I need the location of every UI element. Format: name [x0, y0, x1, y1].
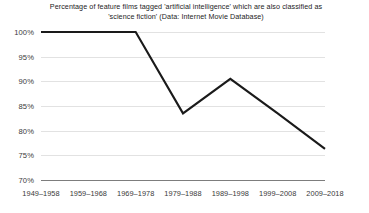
y-axis-tick-label: 95%: [19, 52, 34, 61]
x-axis-tick-label: 2009–2018: [306, 189, 343, 198]
x-axis-labels: 1949–19581959–19681969–19781979–19881989…: [41, 186, 325, 202]
gridline-70: [41, 180, 325, 181]
plot-area: [41, 32, 325, 180]
chart-title: Percentage of feature films tagged 'arti…: [36, 2, 336, 21]
chart-container: Percentage of feature films tagged 'arti…: [0, 0, 369, 213]
x-axis-tick-label: 1979–1988: [164, 189, 201, 198]
y-axis-tick-label: 80%: [19, 126, 34, 135]
y-axis-tick-label: 75%: [19, 151, 34, 160]
chart-title-line-2: 'science fiction' (Data: Internet Movie …: [36, 12, 336, 22]
chart-title-line-1: Percentage of feature films tagged 'arti…: [36, 2, 336, 12]
y-axis-tick-label: 85%: [19, 102, 34, 111]
x-axis-tick-label: 1989–1998: [212, 189, 249, 198]
data-series-line: [41, 32, 325, 180]
y-axis-labels: 70%75%80%85%90%95%100%: [0, 32, 37, 180]
y-axis-tick-label: 70%: [19, 176, 34, 185]
x-axis-tick-label: 1969–1978: [117, 189, 154, 198]
y-axis-tick-label: 100%: [14, 28, 34, 37]
y-axis-tick-label: 90%: [19, 77, 34, 86]
x-axis-tick-label: 1999–2008: [259, 189, 296, 198]
x-axis-tick-label: 1949–1958: [22, 189, 59, 198]
x-axis-tick-label: 1959–1968: [70, 189, 107, 198]
